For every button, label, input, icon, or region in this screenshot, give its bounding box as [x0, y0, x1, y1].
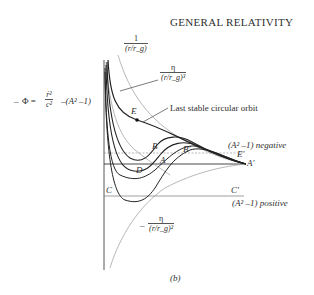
- point-B-prime-label: B′: [183, 145, 190, 154]
- equation-numerator: ṙ²: [45, 90, 53, 99]
- curve-A: [105, 68, 246, 179]
- equation-fraction: ṙ² c²: [45, 90, 53, 109]
- newtonian-numerator: 1: [133, 34, 139, 43]
- quadratic-term-curve: [110, 164, 246, 268]
- last-stable-label: Last stable circular orbit: [170, 104, 258, 113]
- equation-lhs: Φ =: [22, 97, 36, 106]
- quadratic-numerator: η: [158, 214, 164, 223]
- point-D-label: D: [136, 166, 143, 175]
- figure-caption: (b): [170, 274, 181, 283]
- newtonian-term-label: 1 (r/r_g): [124, 34, 148, 53]
- newtonian-denominator: (r/r_g): [124, 43, 148, 53]
- figure-title: GENERAL RELATIVITY: [170, 17, 293, 28]
- point-E-prime-label: E′: [237, 150, 244, 159]
- cubic-numerator: η: [170, 63, 176, 72]
- point-A-prime-label: A′: [247, 159, 254, 168]
- cubic-denominator: (r/r_g)³: [160, 72, 186, 82]
- quadratic-prefix: –: [140, 221, 145, 230]
- cubic-label-pointer: [120, 80, 158, 91]
- positive-label: (A² –1) positive: [232, 199, 288, 208]
- point-E-dot: [135, 118, 139, 122]
- quadratic-denominator: (r/r_g)²: [148, 223, 174, 233]
- equation-denominator: c²: [45, 99, 53, 109]
- point-B-label: B: [152, 142, 158, 151]
- equation-rhs: –(A² –1): [61, 97, 91, 106]
- cubic-term-label: η (r/r_g)³: [160, 63, 186, 82]
- quadratic-term-label: η (r/r_g)²: [148, 214, 174, 233]
- point-C-prime-label: C′: [231, 186, 239, 195]
- point-E-label: E: [131, 107, 137, 116]
- equation-prefix: –: [14, 97, 19, 106]
- point-C-label: C: [106, 186, 112, 195]
- point-A-label: A: [160, 156, 166, 165]
